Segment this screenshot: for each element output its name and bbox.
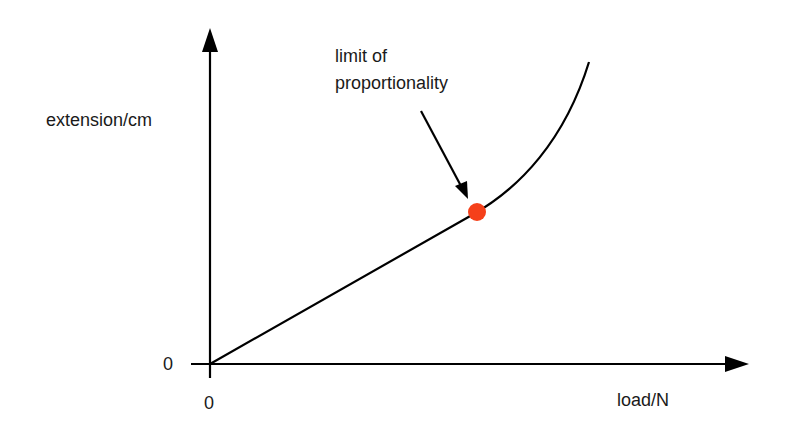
y-axis-arrowhead-icon [202, 28, 218, 52]
y-axis-label: extension/cm [46, 111, 152, 129]
annotation-arrow [421, 111, 468, 199]
x-axis [191, 356, 749, 372]
x-axis-arrowhead-icon [725, 356, 749, 372]
y-origin-label: 0 [163, 355, 173, 373]
y-axis [202, 28, 218, 378]
annotation-line-2: proportionality [335, 74, 448, 92]
limit-of-proportionality-marker [468, 203, 486, 221]
graph-canvas [0, 0, 786, 437]
x-origin-label: 0 [204, 394, 214, 412]
annotation-line-1: limit of [335, 47, 387, 65]
x-axis-label: load/N [617, 391, 669, 409]
load-extension-curve [210, 62, 589, 364]
arrowhead-icon [455, 181, 468, 199]
